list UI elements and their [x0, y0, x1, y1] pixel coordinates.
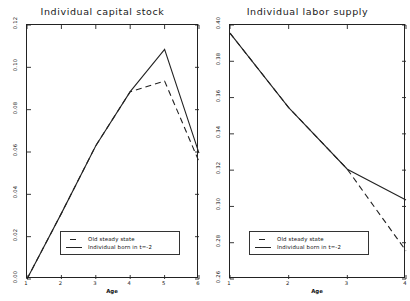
x-tick-label: 3	[339, 280, 353, 286]
x-tick-label: 5	[157, 280, 171, 286]
figure-canvas: Individual capital stock 0.000.020.040.0…	[0, 0, 410, 301]
legend-right: Old steady state Individual born in t=-2	[249, 231, 369, 255]
x-tick-label: 6	[191, 280, 205, 286]
x-tick-label: 2	[281, 280, 295, 286]
y-tick-label: 0.12	[12, 12, 18, 34]
x-tick-label: 2	[53, 280, 67, 286]
legend-left: Old steady state Individual born in t=-2	[60, 231, 180, 255]
y-tick-label: 0.34	[215, 121, 221, 143]
dashed-line-icon	[65, 235, 83, 243]
x-axis-label-right: Age	[229, 288, 405, 294]
y-tick-label: 0.28	[215, 230, 221, 252]
x-tick-label: 4	[122, 280, 136, 286]
page-title-left: Individual capital stock	[0, 6, 205, 17]
x-tick-label: 3	[88, 280, 102, 286]
legend-item-old-steady-state: Old steady state	[65, 235, 174, 243]
page-title-right: Individual labor supply	[205, 6, 410, 17]
legend-item-individual-born: Individual born in t=-2	[254, 243, 363, 251]
x-tick-label: 1	[222, 280, 236, 286]
y-tick-label: 0.32	[215, 157, 221, 179]
x-axis-label-left: Age	[26, 288, 198, 294]
legend-item-individual-born: Individual born in t=-2	[65, 243, 174, 251]
y-tick-label: 0.36	[215, 85, 221, 107]
legend-label: Individual born in t=-2	[277, 244, 341, 250]
dashed-line-icon	[254, 235, 272, 243]
y-tick-label: 0.04	[12, 181, 18, 203]
y-tick-label: 0.08	[12, 97, 18, 119]
legend-label: Old steady state	[88, 236, 135, 242]
x-tick-label: 1	[19, 280, 33, 286]
series-individual-born	[230, 33, 406, 200]
y-tick-label: 0.26	[215, 266, 221, 288]
y-tick-label: 0.38	[215, 48, 221, 70]
y-tick-label: 0.10	[12, 54, 18, 76]
y-tick-label: 0.06	[12, 139, 18, 161]
y-tick-label: 0.30	[215, 193, 221, 215]
y-tick-label: 0.02	[12, 224, 18, 246]
x-tick-label: 4	[398, 280, 410, 286]
solid-line-icon	[254, 243, 272, 251]
legend-item-old-steady-state: Old steady state	[254, 235, 363, 243]
chart-panel-labor-supply: Individual labor supply 0.260.280.300.32…	[205, 0, 410, 301]
legend-label: Individual born in t=-2	[88, 244, 152, 250]
chart-panel-capital-stock: Individual capital stock 0.000.020.040.0…	[0, 0, 205, 301]
legend-label: Old steady state	[277, 236, 324, 242]
y-tick-label: 0.40	[215, 12, 221, 34]
y-tick-label: 0.00	[12, 266, 18, 288]
solid-line-icon	[65, 243, 83, 251]
